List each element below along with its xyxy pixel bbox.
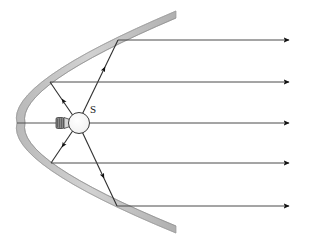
figure-canvas: S [0,0,311,241]
parabolic-mirror [16,11,176,233]
optics-diagram-figure: S [0,0,311,241]
bulb-base [56,118,64,129]
mirror-body [16,11,176,233]
bulb-glass [69,113,90,134]
source-label: S [90,103,96,115]
mirror-outer-edge [16,11,176,233]
light-bulb-source [56,113,90,134]
